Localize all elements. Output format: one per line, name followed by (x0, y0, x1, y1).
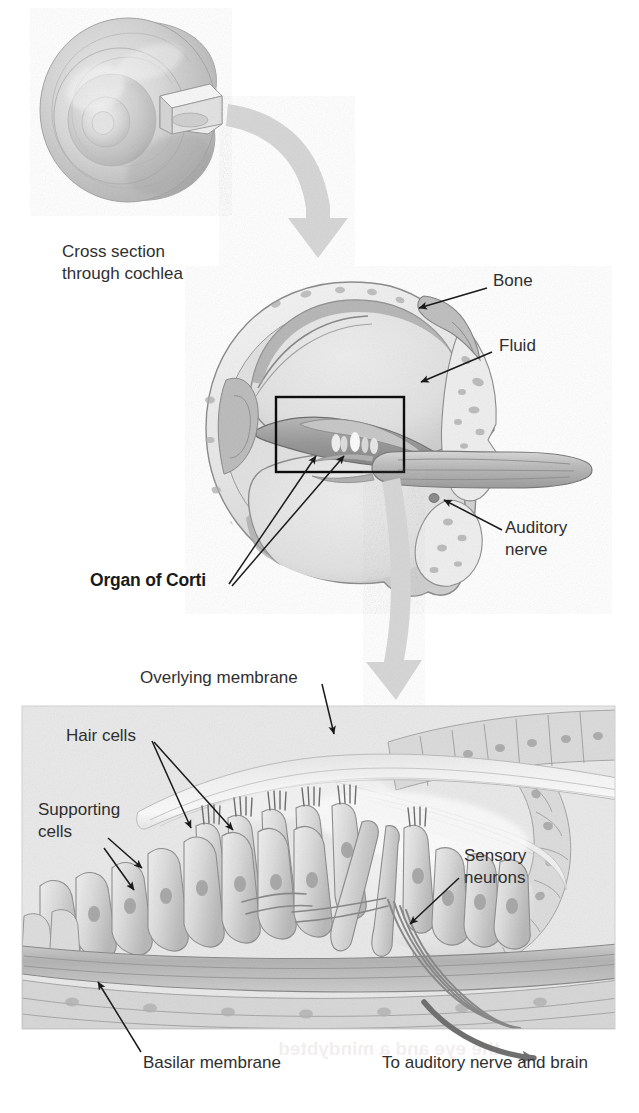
cochlea-spiral-illustration (40, 18, 222, 206)
caption-cross-section-line1: Cross section (62, 242, 165, 262)
label-supporting-cells-line1: Supporting (38, 800, 120, 820)
label-auditory-nerve-line1: Auditory (505, 518, 567, 538)
cochlea-figure: the eye and a mindybted Cross section th… (0, 0, 639, 1113)
label-sensory-neurons-line1: Sensory (464, 846, 526, 866)
label-to-auditory-nerve-and-brain: To auditory nerve and brain (382, 1053, 588, 1073)
label-fluid: Fluid (499, 336, 536, 356)
transition-arrow-top (226, 104, 348, 258)
label-supporting-cells-line2: cells (38, 822, 72, 842)
label-sensory-neurons-line2: neurons (464, 868, 525, 888)
label-organ-of-corti: Organ of Corti (90, 570, 206, 590)
label-basilar-membrane: Basilar membrane (143, 1053, 281, 1073)
label-overlying-membrane: Overlying membrane (140, 668, 298, 688)
label-auditory-nerve-line2: nerve (505, 540, 548, 560)
label-hair-cells: Hair cells (66, 726, 136, 746)
label-bone: Bone (493, 271, 533, 291)
caption-cross-section-line2: through cochlea (62, 264, 183, 284)
